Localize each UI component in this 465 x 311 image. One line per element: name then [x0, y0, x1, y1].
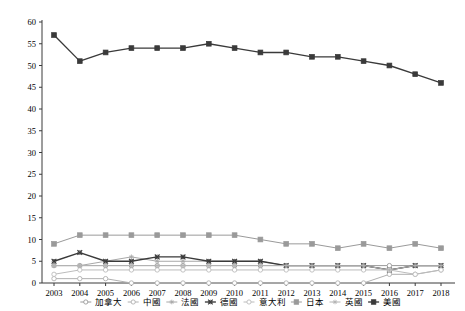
- legend-label: 英國: [345, 297, 363, 307]
- x-tick-label: 2009: [200, 288, 217, 298]
- data-point-marker: [207, 268, 211, 272]
- data-point-marker: [284, 268, 288, 272]
- data-point-marker: [84, 300, 88, 304]
- data-point-marker: [129, 263, 134, 268]
- data-point-marker: [310, 281, 314, 285]
- data-point-marker: [258, 281, 262, 285]
- data-point-marker: [333, 300, 338, 305]
- data-point-marker: [206, 41, 211, 46]
- data-point-marker: [208, 300, 213, 305]
- data-point-marker: [52, 276, 56, 280]
- data-point-marker: [181, 46, 186, 51]
- series-line: [54, 253, 441, 270]
- data-point-marker: [361, 263, 366, 268]
- data-point-marker: [284, 241, 289, 246]
- data-point-marker: [335, 54, 340, 59]
- legend-label: 意大利: [259, 297, 286, 307]
- legend-item-4[interactable]: 意大利: [244, 297, 286, 307]
- data-point-marker: [181, 259, 186, 264]
- legend-item-7[interactable]: 美國: [368, 297, 401, 307]
- x-axis: 2003200420052006200720082009201020112012…: [42, 283, 455, 298]
- y-tick-label: 25: [28, 169, 37, 179]
- data-point-marker: [258, 263, 263, 268]
- y-tick-label: 15: [28, 213, 37, 223]
- y-tick-label: 45: [28, 82, 37, 92]
- data-point-marker: [284, 50, 289, 55]
- y-tick-label: 0: [32, 278, 36, 288]
- data-point-marker: [52, 33, 57, 38]
- data-point-marker: [232, 46, 237, 51]
- data-point-marker: [155, 46, 160, 51]
- data-point-marker: [181, 233, 186, 238]
- data-point-marker: [77, 250, 82, 255]
- legend-label: 法國: [181, 297, 199, 307]
- data-point-marker: [310, 241, 315, 246]
- series-line: [54, 270, 441, 283]
- data-point-marker: [155, 255, 160, 260]
- data-point-marker: [310, 54, 315, 59]
- data-point-marker: [181, 255, 186, 260]
- data-point-marker: [129, 233, 134, 238]
- data-point-marker: [170, 300, 175, 305]
- legend-item-3[interactable]: 德國: [205, 297, 238, 307]
- series-line: [54, 35, 441, 83]
- data-point-marker: [52, 263, 57, 268]
- data-point-marker: [258, 50, 263, 55]
- y-tick-label: 20: [28, 191, 37, 201]
- data-point-marker: [335, 263, 340, 268]
- data-point-marker: [387, 63, 392, 68]
- data-point-marker: [77, 59, 82, 64]
- data-point-marker: [103, 259, 108, 264]
- data-point-marker: [77, 263, 82, 268]
- data-point-marker: [284, 263, 289, 268]
- data-point-marker: [310, 268, 314, 272]
- data-point-marker: [413, 272, 417, 276]
- data-point-marker: [155, 259, 160, 264]
- data-point-marker: [361, 59, 366, 64]
- data-point-marker: [129, 255, 134, 260]
- data-point-marker: [155, 263, 160, 268]
- data-point-marker: [258, 237, 263, 242]
- data-point-marker: [387, 246, 392, 251]
- data-point-marker: [206, 259, 211, 264]
- data-point-marker: [247, 300, 251, 304]
- data-point-marker: [258, 268, 262, 272]
- data-point-marker: [103, 233, 108, 238]
- legend-label: 日本: [306, 297, 324, 307]
- data-point-marker: [52, 272, 56, 276]
- legend-label: 美國: [383, 297, 401, 307]
- data-point-marker: [181, 268, 185, 272]
- data-point-marker: [129, 268, 133, 272]
- legend-item-5[interactable]: 日本: [291, 297, 324, 307]
- data-point-marker: [258, 259, 263, 264]
- data-point-marker: [413, 263, 418, 268]
- chart-canvas: 051015202530354045505560 200320042005200…: [0, 0, 465, 311]
- legend-item-6[interactable]: 英國: [330, 297, 363, 307]
- y-tick-label: 55: [28, 39, 37, 49]
- series-7: [52, 33, 444, 86]
- data-point-marker: [413, 72, 418, 77]
- data-point-marker: [387, 268, 392, 273]
- y-tick-label: 50: [28, 61, 37, 71]
- data-point-marker: [103, 276, 107, 280]
- data-point-marker: [181, 263, 186, 268]
- data-point-marker: [439, 263, 444, 268]
- data-point-marker: [284, 281, 288, 285]
- series-line: [54, 257, 441, 270]
- y-tick-label: 35: [28, 126, 37, 136]
- series-layer: [52, 33, 444, 286]
- legend-item-2[interactable]: 法國: [166, 297, 199, 307]
- data-point-marker: [310, 263, 315, 268]
- data-point-marker: [439, 268, 443, 272]
- x-tick-label: 2003: [46, 288, 63, 298]
- chart-legend: 加拿大中國法國德國意大利日本英國美國: [80, 297, 401, 307]
- series-5: [52, 233, 444, 251]
- legend-item-0[interactable]: 加拿大: [80, 297, 122, 307]
- y-tick-label: 5: [32, 256, 36, 266]
- legend-item-1[interactable]: 中國: [128, 297, 161, 307]
- data-point-marker: [207, 281, 211, 285]
- data-point-marker: [232, 281, 236, 285]
- y-tick-label: 30: [28, 148, 37, 158]
- y-tick-label: 60: [28, 17, 37, 27]
- data-point-marker: [335, 246, 340, 251]
